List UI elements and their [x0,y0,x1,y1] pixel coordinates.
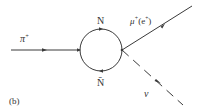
muon-label: μ+(e+) [129,15,151,26]
neutrino-line [122,50,183,105]
feynman-diagram: π+ N N̄ μ+(e+) ν (b) [0,0,201,111]
arrow-icon [99,27,103,30]
nucleon-label: N [97,15,104,26]
nucleon-loop [80,27,122,72]
neutrino-label: ν [144,88,149,99]
arrow-icon [99,69,103,72]
antinucleon-label: N̄ [97,77,104,88]
arrow-icon [42,48,47,51]
pion-label: π+ [20,33,29,44]
panel-label: (b) [9,96,20,106]
muon-line [122,6,192,50]
vertex [121,49,124,52]
pion-line [11,48,81,51]
